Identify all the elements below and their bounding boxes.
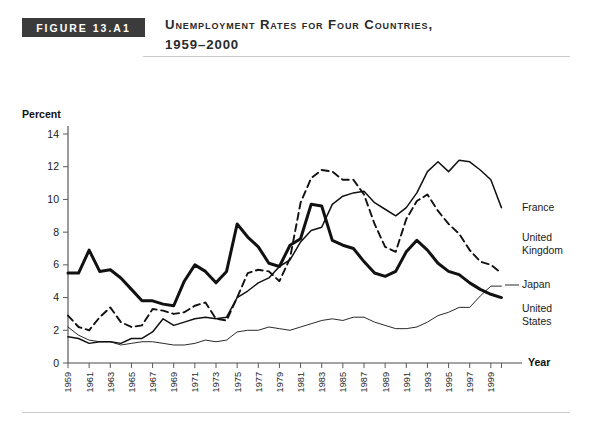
x-tick-label: 1997 (465, 372, 475, 392)
x-tick-label: 1999 (486, 372, 496, 392)
x-tick-label: 1973 (211, 372, 221, 392)
x-tick-label: 1961 (85, 372, 95, 392)
y-tick-label: 14 (47, 128, 59, 140)
y-axis-ticks: 02468101214 (47, 128, 68, 369)
x-tick-label: 1977 (254, 372, 264, 392)
x-axis-ticks: 1959196119631965196719691971197319751977… (63, 363, 501, 392)
series-label-united-states: United (522, 303, 552, 314)
x-tick-label: 1993 (423, 372, 433, 392)
series-label-japan: Japan (522, 279, 551, 290)
series-label-united-kingdom: United (522, 232, 552, 243)
x-axis-title: Year (528, 356, 550, 368)
series-label-france: France (522, 202, 555, 213)
x-tick-label: 1959 (63, 372, 73, 392)
y-tick-label: 6 (53, 258, 59, 270)
y-tick-label: 0 (53, 357, 59, 369)
x-tick-label: 1965 (127, 372, 137, 392)
y-tick-label: 12 (47, 160, 59, 172)
x-tick-label: 1967 (148, 372, 158, 392)
series-line-japan (68, 286, 501, 345)
y-tick-label: 10 (47, 193, 59, 205)
x-tick-label: 1983 (317, 372, 327, 392)
x-tick-label: 1979 (275, 372, 285, 392)
line-chart: 02468101214 1959196119631965196719691971… (0, 0, 590, 431)
series-label-united-kingdom-line2: Kingdom (522, 245, 563, 256)
figure-container: FIGURE 13.A1 Unemployment Rates for Four… (0, 0, 590, 431)
y-tick-label: 4 (53, 291, 59, 303)
x-tick-label: 1989 (381, 372, 391, 392)
x-tick-label: 1971 (190, 372, 200, 392)
x-tick-label: 1975 (233, 372, 243, 392)
x-tick-label: 1985 (338, 372, 348, 392)
x-tick-label: 1987 (359, 372, 369, 392)
x-tick-label: 1969 (169, 372, 179, 392)
series-line-france (68, 160, 501, 343)
series-labels-group: UnitedStatesFranceUnitedKingdomJapan (505, 202, 563, 327)
chart-axes (68, 126, 522, 363)
x-tick-label: 1995 (444, 372, 454, 392)
x-tick-label: 1981 (296, 372, 306, 392)
chart-series-group (68, 160, 501, 345)
y-tick-label: 2 (53, 324, 59, 336)
y-tick-label: 8 (53, 226, 59, 238)
series-label-united-states-line2: States (522, 316, 551, 327)
y-axis-title: Percent (22, 108, 61, 120)
x-tick-label: 1991 (402, 372, 412, 392)
series-line-united-states (68, 204, 501, 305)
series-line-united-kingdom (68, 170, 501, 330)
x-tick-label: 1963 (106, 372, 116, 392)
